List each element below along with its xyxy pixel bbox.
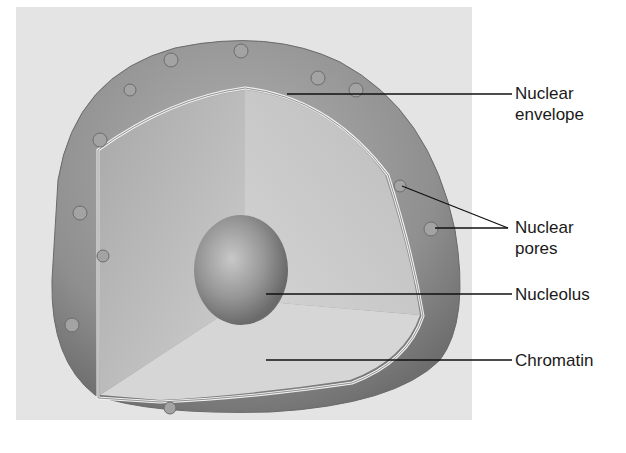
label-chromatin: Chromatin — [515, 350, 593, 371]
label-line: pores — [515, 238, 574, 259]
label-line: Chromatin — [515, 350, 593, 371]
label-line: envelope — [515, 104, 584, 125]
label-line: Nuclear — [515, 83, 584, 104]
label-nucleolus: Nucleolus — [515, 284, 590, 305]
label-nuclear-envelope: Nuclear envelope — [515, 83, 584, 125]
nucleolus-body — [194, 215, 288, 325]
label-line: Nucleolus — [515, 284, 590, 305]
label-nuclear-pores: Nuclear pores — [515, 217, 574, 259]
label-line: Nuclear — [515, 217, 574, 238]
